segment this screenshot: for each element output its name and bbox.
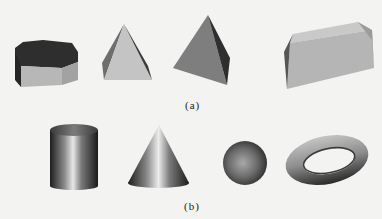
hexagonal-prism bbox=[15, 40, 78, 87]
torus bbox=[281, 128, 373, 192]
trapezoidal-prism bbox=[284, 22, 374, 89]
caption-a: (a) bbox=[185, 99, 200, 111]
sphere bbox=[223, 141, 267, 185]
caption-b: (b) bbox=[184, 200, 200, 212]
cone bbox=[128, 125, 189, 188]
tetrahedron bbox=[173, 15, 230, 85]
square-pyramid bbox=[102, 24, 152, 80]
cylinder bbox=[50, 124, 98, 190]
